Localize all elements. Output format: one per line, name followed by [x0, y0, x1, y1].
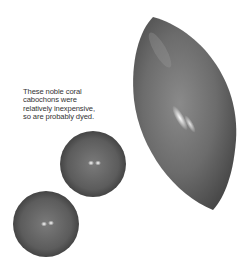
round-cabochon-lower	[13, 191, 79, 257]
caption-line: so are probably dyed.	[23, 113, 133, 121]
caption-text: These noble coral cabochons were relativ…	[23, 88, 133, 122]
cabochon-photo	[0, 0, 251, 268]
marquise-cabochon	[133, 17, 236, 210]
round-cabochon-upper	[60, 131, 126, 197]
